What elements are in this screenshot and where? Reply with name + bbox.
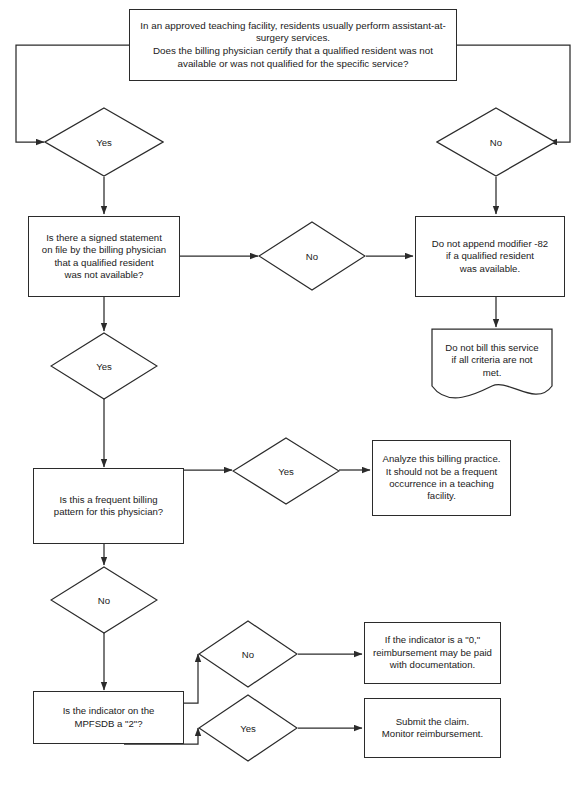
edge-indicator-to-no xyxy=(184,654,198,703)
do-not-append-box: Do not append modifier -82 if a qualifie… xyxy=(415,216,565,297)
do-not-bill-label: Do not bill this service if all criteria… xyxy=(431,328,553,379)
decision-yes-indicator: Yes xyxy=(198,694,298,762)
decision-yes-mid: Yes xyxy=(50,332,158,400)
decision-yes-frequent: Yes xyxy=(232,437,340,505)
indicator-question-box: Is the indicator on the MPFSDB a "2"? xyxy=(33,691,184,744)
decision-yes-mid-label: Yes xyxy=(50,332,158,400)
decision-yes-top-label: Yes xyxy=(44,107,164,177)
decision-no-mid-label: No xyxy=(258,221,366,291)
decision-no-indicator: No xyxy=(198,620,298,688)
decision-yes-frequent-label: Yes xyxy=(232,437,340,505)
decision-no-top: No xyxy=(436,107,556,177)
analyze-practice-box: Analyze this billing practice. It should… xyxy=(372,440,511,516)
start-question-box: In an approved teaching facility, reside… xyxy=(129,9,457,81)
flowchart-canvas: In an approved teaching facility, reside… xyxy=(0,0,586,788)
submit-claim-box: Submit the claim. Monitor reimbursement. xyxy=(364,698,501,758)
decision-yes-top: Yes xyxy=(44,107,164,177)
decision-no-frequent: No xyxy=(50,566,158,634)
indicator-zero-box: If the indicator is a "0," reimbursement… xyxy=(364,622,501,684)
signed-statement-box: Is there a signed statement on file by t… xyxy=(28,216,180,297)
decision-no-frequent-label: No xyxy=(50,566,158,634)
do-not-bill-document: Do not bill this service if all criteria… xyxy=(431,328,553,400)
frequent-pattern-box: Is this a frequent billing pattern for t… xyxy=(33,468,184,544)
decision-yes-indicator-label: Yes xyxy=(198,694,298,762)
decision-no-indicator-label: No xyxy=(198,620,298,688)
decision-no-mid: No xyxy=(258,221,366,291)
decision-no-top-label: No xyxy=(436,107,556,177)
